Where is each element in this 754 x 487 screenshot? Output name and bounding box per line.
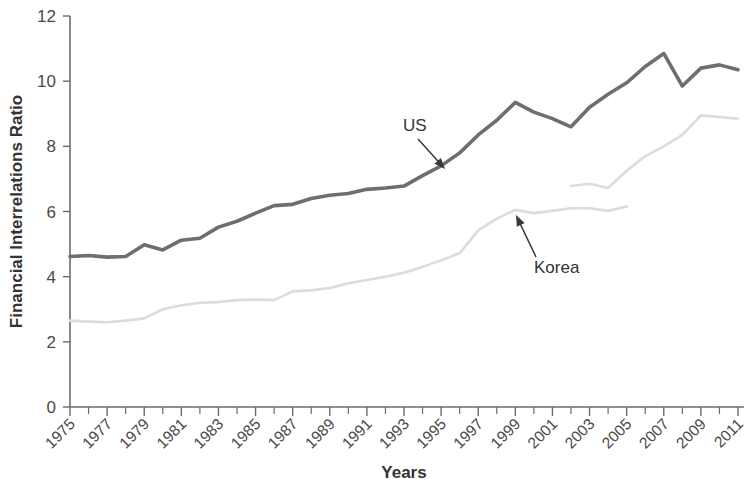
y-tick-label: 4 <box>47 268 56 287</box>
x-tick-label: 1979 <box>116 415 152 451</box>
x-tick-label: 1991 <box>339 415 375 451</box>
annotation-us: US <box>403 116 445 169</box>
x-tick-label: 1987 <box>264 415 300 451</box>
y-tick-label: 2 <box>47 333 56 352</box>
y-tick-label: 12 <box>37 7 56 26</box>
x-tick-label: 1995 <box>413 415 449 451</box>
annotation-arrow-head-korea <box>516 215 525 227</box>
x-tick-label: 1989 <box>301 415 337 451</box>
annotation-arrow-shaft-us <box>418 139 439 162</box>
annotation-label-korea: Korea <box>534 258 580 277</box>
x-tick-label: 1993 <box>376 415 412 451</box>
y-tick-label: 0 <box>47 398 56 417</box>
y-tick-label: 6 <box>47 203 56 222</box>
financial-interrelations-ratio-line-chart: 024681012 197519771979198119831985198719… <box>0 0 754 487</box>
x-axis-title: Years <box>381 463 426 482</box>
y-tick-label: 10 <box>37 72 56 91</box>
annotation-arrow-shaft-korea <box>520 223 536 257</box>
chart-annotations: USKorea <box>403 116 580 277</box>
x-tick-label: 1985 <box>227 415 263 451</box>
x-axis-ticks: 1975197719791981198319851987198919911993… <box>42 407 746 452</box>
chart-axes <box>70 16 744 407</box>
x-tick-label: 1997 <box>450 415 486 451</box>
x-tick-label: 2011 <box>711 415 747 451</box>
x-tick-label: 2005 <box>598 415 634 451</box>
x-tick-label: 2003 <box>561 415 597 451</box>
x-tick-label: 1977 <box>79 415 115 451</box>
y-axis-title: Financial Interrelations Ratio <box>7 95 26 328</box>
x-tick-label: 2001 <box>524 415 560 451</box>
chart-container: 024681012 197519771979198119831985198719… <box>0 0 754 487</box>
x-tick-label: 1999 <box>487 415 523 451</box>
chart-series <box>70 53 738 322</box>
x-tick-label: 2009 <box>673 415 709 451</box>
y-axis-ticks: 024681012 <box>37 7 70 417</box>
x-tick-label: 1975 <box>42 415 78 451</box>
y-tick-label: 8 <box>47 137 56 156</box>
x-tick-label: 2007 <box>635 415 671 451</box>
series-line-us <box>70 53 738 257</box>
annotation-korea: Korea <box>516 215 580 277</box>
annotation-label-us: US <box>403 116 427 135</box>
x-tick-label: 1983 <box>190 415 226 451</box>
x-tick-label: 1981 <box>153 415 189 451</box>
series-line-korea-revised <box>571 115 738 188</box>
